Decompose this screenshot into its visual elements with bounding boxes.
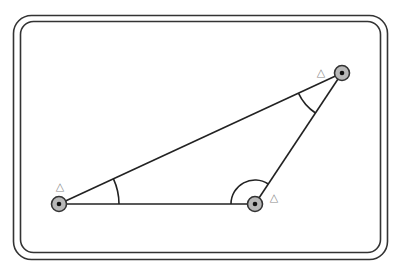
vertex-dot-icon: [340, 71, 345, 76]
edge-CA: [59, 73, 342, 204]
vertex-dot-icon: [253, 202, 258, 207]
vertex-B[interactable]: [248, 197, 263, 212]
vertex-dot-icon: [57, 202, 62, 207]
vertex-labels: △△△: [56, 66, 326, 204]
vertex-C[interactable]: [335, 66, 350, 81]
diagram-canvas: △△△: [0, 0, 401, 268]
angle-arc-C: [298, 93, 315, 113]
triangle-edges: [59, 73, 342, 204]
angle-arc-A: [113, 179, 119, 204]
vertex-label-A: △: [56, 180, 65, 193]
vertex-label-B: △: [270, 191, 279, 204]
frame-border-outer: [14, 16, 388, 260]
vertex-label-C: △: [317, 66, 326, 79]
triangle-diagram: △△△: [0, 0, 401, 268]
vertex-A[interactable]: [52, 197, 67, 212]
rounded-frame: [14, 16, 388, 260]
frame-border-inner: [21, 22, 381, 253]
angle-arcs: [113, 93, 315, 204]
